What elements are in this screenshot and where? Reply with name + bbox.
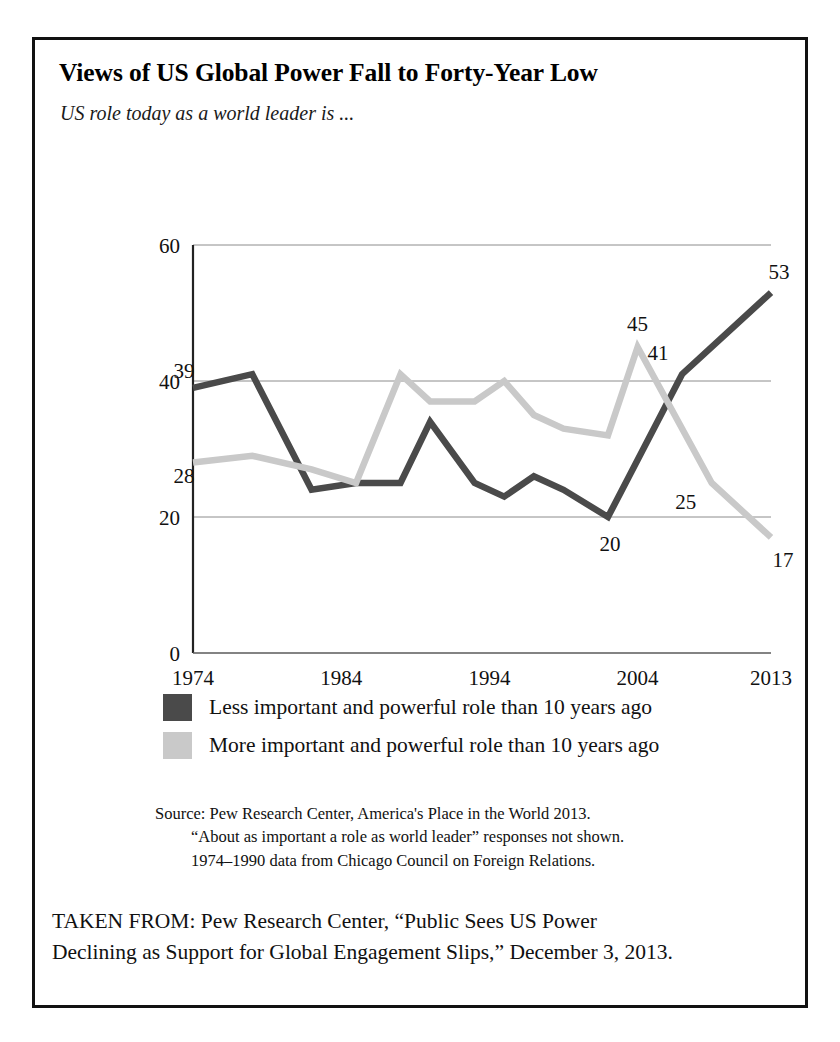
x-tick-label: 1974: [172, 666, 215, 690]
line-chart-svg: 0204060197419841994200420133928452517204…: [35, 190, 811, 690]
legend-swatch-dark: [163, 694, 192, 721]
data-label: 28: [174, 464, 195, 488]
x-tick-label: 2013: [750, 666, 792, 690]
legend-item-less-important: Less important and powerful role than 10…: [163, 688, 783, 726]
y-tick-label: 60: [159, 234, 180, 258]
legend-swatch-light: [163, 732, 192, 759]
taken-from-line-1: TAKEN FROM: Pew Research Center, “Public…: [52, 906, 794, 937]
source-note-line-1: Source: Pew Research Center, America's P…: [155, 802, 795, 825]
x-tick-label: 1984: [320, 666, 363, 690]
page-title: Views of US Global Power Fall to Forty-Y…: [59, 58, 779, 87]
data-label: 17: [773, 548, 794, 572]
chart-legend: Less important and powerful role than 10…: [163, 688, 783, 764]
source-note: Source: Pew Research Center, America's P…: [155, 802, 795, 872]
data-label: 53: [769, 260, 790, 284]
data-label: 41: [648, 341, 669, 365]
taken-from-note: TAKEN FROM: Pew Research Center, “Public…: [52, 906, 794, 968]
source-note-line-3: 1974–1990 data from Chicago Council on F…: [155, 849, 795, 872]
y-tick-label: 0: [170, 642, 181, 666]
legend-label-less-important: Less important and powerful role than 10…: [209, 695, 652, 720]
data-label: 39: [174, 359, 195, 383]
x-tick-label: 2004: [617, 666, 660, 690]
legend-item-more-important: More important and powerful role than 10…: [163, 726, 783, 764]
chart-plot-area: 0204060197419841994200420133928452517204…: [35, 190, 811, 690]
legend-label-more-important: More important and powerful role than 10…: [209, 733, 659, 758]
x-tick-label: 1994: [468, 666, 511, 690]
series-line-less-important: [193, 293, 771, 517]
y-tick-label: 20: [159, 506, 180, 530]
data-label: 25: [675, 490, 696, 514]
chart-subtitle: US role today as a world leader is ...: [60, 101, 760, 125]
source-note-line-2: “About as important a role as world lead…: [155, 825, 795, 848]
taken-from-line-2: Declining as Support for Global Engageme…: [52, 937, 794, 968]
data-label: 45: [627, 312, 648, 336]
data-label: 20: [599, 532, 620, 556]
figure-frame: Views of US Global Power Fall to Forty-Y…: [32, 37, 808, 1008]
